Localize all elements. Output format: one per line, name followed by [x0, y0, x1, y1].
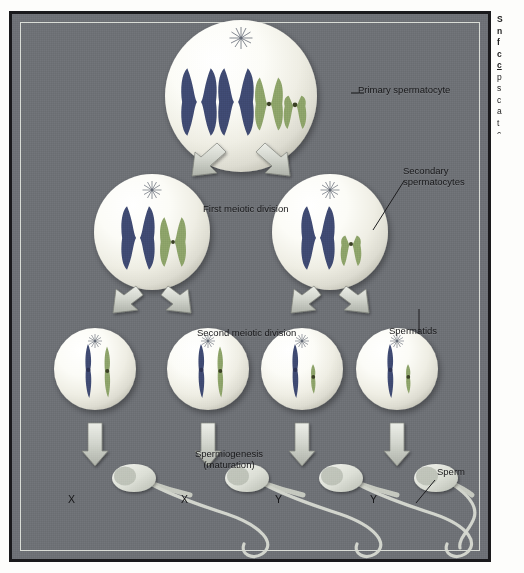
- cell-spermatid-2: [167, 328, 249, 410]
- margin-line-11: c: [497, 129, 524, 134]
- margin-line-1: S: [497, 14, 524, 26]
- margin-line-2: n: [497, 26, 524, 38]
- margin-line-8: c: [497, 95, 524, 107]
- margin-line-9: a: [497, 106, 524, 118]
- figure-page: Primary spermatocyte Secondary spermatoc…: [0, 0, 524, 573]
- arrow-spermiogenesis-1: [82, 423, 108, 466]
- sperm-label-4: Y: [370, 493, 377, 505]
- label-sperm: Sperm: [437, 466, 465, 478]
- margin-line-3: f: [497, 37, 524, 49]
- cell-spermatid-3: [261, 328, 343, 410]
- cell-spermatid-1: [54, 328, 136, 410]
- label-secondary-spermatocytes-line1: Secondary: [403, 165, 448, 177]
- arrow-spermiogenesis-4: [384, 423, 410, 466]
- label-second-meiotic-division: Second meiotic division: [197, 327, 296, 339]
- cell-secondary-spermatocyte-left: [94, 174, 210, 290]
- label-first-meiotic-division: First meiotic division: [203, 203, 289, 215]
- sperm-label-3: Y: [275, 493, 282, 505]
- margin-caption-column: S n f c c p s c a t c: [497, 14, 524, 134]
- arrow-meiosis2-c: [291, 286, 321, 313]
- cell-secondary-spermatocyte-right: [272, 174, 388, 290]
- margin-line-10: t: [497, 118, 524, 130]
- label-spermiogenesis-line2: (maturation): [186, 459, 272, 471]
- arrow-meiosis2-b: [161, 286, 191, 313]
- cell-spermatid-4: [356, 328, 438, 410]
- arrow-meiosis2-d: [339, 286, 369, 313]
- spermatogenesis-drawing: [12, 14, 488, 559]
- margin-line-4: c: [497, 49, 524, 61]
- cell-primary-spermatocyte: [165, 20, 317, 172]
- arrow-spermiogenesis-3: [289, 423, 315, 466]
- label-secondary-spermatocytes-line2: spermatocytes: [403, 176, 465, 188]
- margin-line-6: p: [497, 72, 524, 84]
- label-spermiogenesis-line1: Spermiogenesis: [186, 448, 272, 460]
- sperm-label-2: X: [181, 493, 188, 505]
- label-primary-spermatocyte: Primary spermatocyte: [358, 84, 450, 96]
- label-spermatids: Spermatids: [389, 325, 437, 337]
- arrow-meiosis2-a: [113, 286, 143, 313]
- sperm-label-1: X: [68, 493, 75, 505]
- margin-line-7: s: [497, 83, 524, 95]
- margin-line-5: c: [497, 60, 524, 72]
